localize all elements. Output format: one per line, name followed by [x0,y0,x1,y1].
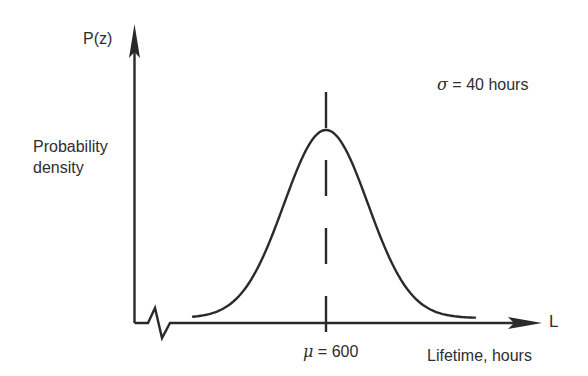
sigma-symbol: σ [437,75,448,94]
x-axis-title: Lifetime, hours [427,346,532,365]
mean-annotation: μ = 600 [303,342,358,361]
y-axis-label: P(z) [83,29,112,48]
x-axis [135,308,516,338]
normal-distribution-curve [193,130,475,318]
sigma-annotation: σ = 40 hours [437,75,528,94]
mu-symbol: μ [303,342,313,361]
chart-canvas [0,0,588,376]
mu-value: = 600 [313,343,358,360]
sigma-value: = 40 hours [448,76,529,93]
y-axis-description-line1: Probability [33,137,108,156]
x-axis-symbol: L [549,312,558,331]
y-axis-description-line2: density [33,158,84,177]
